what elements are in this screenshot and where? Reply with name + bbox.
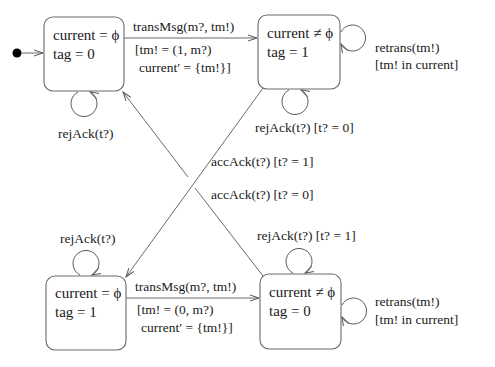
self-loop-s1-label: rejAck(t?) xyxy=(58,126,113,141)
self-loop-s2-rej-label: rejAck(t?) [t? = 0] xyxy=(255,120,354,135)
transition-s1-to-s2[interactable]: transMsg(m?, tm!) [tm! = (1, m?) current… xyxy=(124,19,257,75)
self-loop-s2-retrans[interactable]: retrans(tm!) [tm! in current] xyxy=(341,25,458,72)
transition-s2-s3-label: accAck(t?) [t? = 1] xyxy=(211,154,313,169)
state-s1-current: current = ϕ xyxy=(53,27,119,43)
state-s1[interactable]: current = ϕ tag = 0 xyxy=(44,17,124,91)
self-loop-s3-label: rejAck(t?) xyxy=(60,231,115,246)
self-loop-s2-rejack[interactable]: rejAck(t?) [t? = 0] xyxy=(255,90,354,135)
self-loop-s3-rejack[interactable]: rejAck(t?) xyxy=(60,231,115,275)
transition-s3-s4-event: transMsg(m?, tm!) xyxy=(135,279,236,294)
state-s2-current: current ≠ ϕ xyxy=(267,25,333,41)
transition-s1-s2-guard1: [tm! = (1, m?) xyxy=(135,42,212,57)
self-loop-s2-retrans-line2: [tm! in current] xyxy=(375,57,458,72)
state-s4[interactable]: current ≠ ϕ tag = 0 xyxy=(260,274,341,349)
state-s2-tag: tag = 1 xyxy=(267,44,309,60)
transition-s1-s2-event: transMsg(m?, tm!) xyxy=(133,19,234,34)
state-s4-current: current ≠ ϕ xyxy=(269,284,335,300)
state-s1-tag: tag = 0 xyxy=(53,46,95,62)
initial-state-marker xyxy=(13,49,44,58)
transition-s3-s4-guard1: [tm! = (0, m?) xyxy=(137,302,214,317)
self-loop-s4-rej-label: rejAck(t?) [t? = 1] xyxy=(257,228,356,243)
state-s2[interactable]: current ≠ ϕ tag = 1 xyxy=(258,15,340,89)
self-loop-s4-retrans-line2: [tm! in current] xyxy=(375,312,458,327)
transition-s1-s2-guard2: current′ = {tm!}] xyxy=(139,60,231,75)
state-s3[interactable]: current = ϕ tag = 1 xyxy=(46,276,126,350)
state-diagram: current = ϕ tag = 0 current ≠ ϕ tag = 1 … xyxy=(0,0,495,367)
state-s4-tag: tag = 0 xyxy=(269,303,311,319)
transition-s2-to-s3[interactable]: accAck(t?) [t? = 1] xyxy=(126,88,313,277)
transition-s4-s1-label: accAck(t?) [t? = 0] xyxy=(211,187,313,202)
self-loop-s4-retrans-line1: retrans(tm!) xyxy=(375,294,439,309)
self-loop-s4-retrans[interactable]: retrans(tm!) [tm! in current] xyxy=(342,294,458,327)
self-loop-s2-retrans-line1: retrans(tm!) xyxy=(375,40,439,55)
state-s3-current: current = ϕ xyxy=(55,285,121,301)
self-loop-s1-rejack[interactable]: rejAck(t?) xyxy=(58,92,113,141)
transition-s3-to-s4[interactable]: transMsg(m?, tm!) [tm! = (0, m?) current… xyxy=(126,279,259,335)
transition-s3-s4-guard2: current′ = {tm!}] xyxy=(141,320,233,335)
self-loop-s4-rejack[interactable]: rejAck(t?) [t? = 1] xyxy=(257,228,356,273)
initial-dot-icon xyxy=(13,49,22,58)
state-s3-tag: tag = 1 xyxy=(55,304,97,320)
